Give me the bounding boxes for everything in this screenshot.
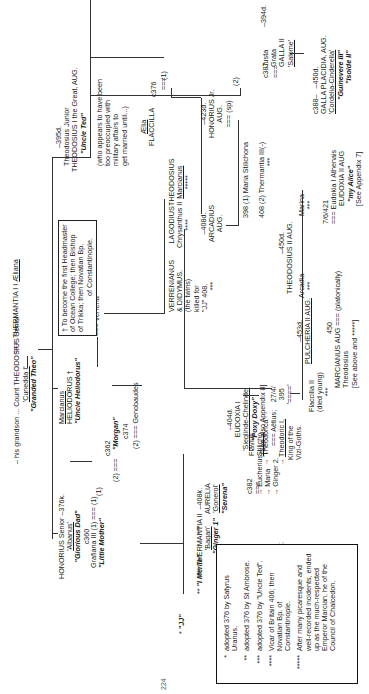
ted-vertical xyxy=(52,157,90,158)
galla-placidia: c388– –450d. GALLA PLACIDIA, AUG. 'Corde… xyxy=(312,35,353,114)
arcadius-children-drop xyxy=(290,393,300,394)
honorius-jr-spouse-bracket xyxy=(226,225,238,226)
honorius-m2: (2) === xyxy=(112,459,120,482)
arcadius-marriage-date: 27/4/ 395 '====' xyxy=(270,384,295,404)
honorius-marriage-bracket xyxy=(70,461,92,462)
root-nickname: "Granded Theo" xyxy=(30,356,38,412)
morgan-genobaudes-line xyxy=(112,385,142,386)
legend-item: *adopted 376 by Satyrus Uranus. xyxy=(223,551,239,677)
heliodorus: Marcianus HELIODORUS † "Uncle Heliodorus… xyxy=(58,358,83,424)
stilicho: Flavius Stilicho xyxy=(248,433,264,456)
flaccilla-child-vert xyxy=(171,97,201,98)
flaccilla: Ælia FLACCILLA xyxy=(140,108,156,146)
lagodius: LAGODIUS Chrysanthus II **** xyxy=(168,202,193,248)
theodosius-ii: –450d. THEODOSIUS II AUG. xyxy=(278,221,294,294)
legend-item: **adopted 376 by St Ambrose. xyxy=(243,551,251,677)
arcadius-bar xyxy=(184,229,185,389)
legend-box: *adopted 376 by Satyrus Uranus. **adopte… xyxy=(216,544,358,684)
galla-link-h xyxy=(240,88,241,96)
verrena-drop xyxy=(104,313,164,314)
ted-note: (who appears to have been too preoccupie… xyxy=(96,79,129,166)
honorius-jr-spouse-bar xyxy=(238,120,239,226)
page-number: 224 xyxy=(160,678,168,690)
verrenianus: VERRENIANUS & DIDYMUS, (the twins) kille… xyxy=(168,260,217,312)
grafiana: Grafiana III (1) === (1) "Little Mother" xyxy=(90,496,106,568)
family-tree-diagram: – his grandson ... Count THEODOSIUS Seni… xyxy=(0,0,369,694)
galla-eq: === xyxy=(272,65,280,78)
arcadius-to-marriage xyxy=(184,388,272,389)
honorius-jr-spouse-1: 398 (1) Maria Stilichona xyxy=(242,142,250,218)
gen1-sibling-bar xyxy=(52,164,53,539)
morgan: "Morgan" xyxy=(112,417,120,450)
theodosius-ii-marriage: 7/6/421 === Eudokia I Athenais EUDOXIA I… xyxy=(322,150,363,224)
heliodorus-marriage-line xyxy=(97,337,98,367)
honorius-children-bar xyxy=(183,454,184,594)
legend-item: ***adopted 376 by "Uncle Ted". xyxy=(256,551,264,677)
honorius-children-drop xyxy=(140,543,183,544)
honorius-jr: –423d. HONORIUS Jr. AUG. === (sp) xyxy=(200,90,233,138)
arcadius: –408d. ARCADIUS AUG. xyxy=(200,205,225,242)
jj: * "JJ" xyxy=(178,614,186,634)
galla-death: –394d. xyxy=(260,5,268,27)
morgan-year: c374 xyxy=(122,423,130,439)
stilicho-children: → Eucherius → Maria → Ginger 2. xyxy=(256,455,281,496)
verrena-children-bar xyxy=(164,199,165,314)
pulcheria-marriage: 450 MARCIANUS AUG === (platonically) The… xyxy=(326,271,359,388)
honorius-senior: HONORIUS Senior –376k. 'Albanus' "Glorio… xyxy=(58,494,91,579)
root-person: 'Cunedda I' "Granded Theo" xyxy=(22,356,38,412)
arcadia: Arcadia *** xyxy=(298,274,314,298)
root-marriage-eq: === xyxy=(12,341,20,354)
flaccilla-m1: (1) xyxy=(160,71,168,80)
ted-right-line xyxy=(90,0,91,158)
placidia-link xyxy=(290,53,304,54)
eudoxia-to-marriage xyxy=(243,395,259,396)
legend-item: ****Vicar of Britain 406; then Novatian … xyxy=(268,551,293,677)
aurelia: –408k. AURELIA 'Gonerol' "Serena" xyxy=(196,483,229,514)
root-spouse: THERMANTIA I I Ælianа xyxy=(12,259,20,338)
theodosius-marcianus: THEODOSIUS Marcianus ***** xyxy=(168,158,193,206)
honorius-jr-spouse-2: 408 (2) Thermantia III(-) *** xyxy=(258,142,274,218)
thermantia-ii-stars: *** xyxy=(196,526,204,534)
pulcheria: –453d. PULCHERIA II AUG. xyxy=(296,298,312,364)
marina: Marina *** xyxy=(298,194,314,216)
ted-drop xyxy=(52,158,53,164)
root-drop-line xyxy=(38,349,53,350)
root-link xyxy=(27,356,28,368)
honorius-m1: (1) xyxy=(95,487,103,496)
legend-item: *****After many picaresque and well-reco… xyxy=(296,551,337,677)
heliodorus-note: † To become the first Headmaster of Ocea… xyxy=(58,220,97,336)
morgan-marriage: (2) === Genobaudes xyxy=(132,382,140,449)
flaccilla-link xyxy=(90,57,164,58)
galla-marriage: (2) xyxy=(232,77,240,86)
